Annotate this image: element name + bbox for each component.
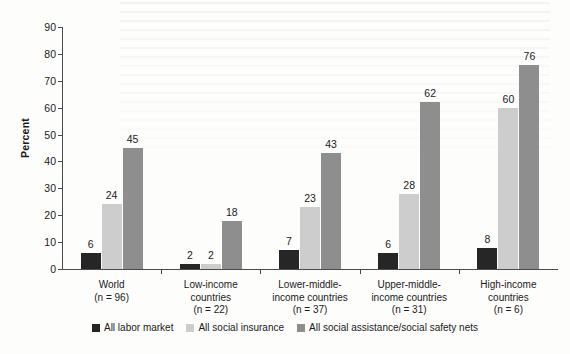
y-tick-label: 70 <box>22 75 56 87</box>
bar: 43 <box>321 153 341 269</box>
legend-swatch-icon <box>297 324 305 332</box>
legend-item-label: All social assistance/social safety nets <box>309 322 478 333</box>
bar-value-label: 18 <box>226 206 238 218</box>
bar-value-label: 24 <box>106 189 118 201</box>
x-axis-line <box>62 269 558 270</box>
y-tick-label: 10 <box>22 236 56 248</box>
y-tick-label: 20 <box>22 209 56 221</box>
bar: 6 <box>378 253 398 269</box>
y-tick-mark <box>58 135 62 136</box>
x-axis-group-separator <box>161 269 162 274</box>
y-tick-mark <box>58 27 62 28</box>
y-tick-mark <box>58 215 62 216</box>
y-tick-mark <box>58 81 62 82</box>
legend-item-label: All social insurance <box>198 322 284 333</box>
y-tick-label: 50 <box>22 129 56 141</box>
x-axis-category-label-line: countries <box>448 292 568 305</box>
x-axis-group-separator <box>459 269 460 274</box>
y-tick-label: 80 <box>22 48 56 60</box>
legend-swatch-icon <box>92 324 100 332</box>
y-axis-line <box>62 27 63 270</box>
x-axis-category-label-line: (n = 6) <box>448 304 568 317</box>
y-tick-mark <box>58 188 62 189</box>
x-axis-category-label-line: High-income <box>448 279 568 292</box>
bar-value-label: 6 <box>88 238 94 250</box>
y-tick-mark <box>58 269 62 270</box>
bar: 24 <box>102 204 122 269</box>
bar-value-label: 28 <box>403 179 415 191</box>
y-tick-label: 0 <box>22 263 56 275</box>
chart-legend: All labor marketAll social insuranceAll … <box>0 322 570 333</box>
bar-value-label: 23 <box>304 192 316 204</box>
bar: 62 <box>420 102 440 269</box>
bar: 8 <box>477 248 497 270</box>
bar-value-label: 45 <box>127 133 139 145</box>
bar: 60 <box>498 108 518 269</box>
bar-value-label: 8 <box>484 233 490 245</box>
x-axis-category-label: High-incomecountries(n = 6) <box>448 279 568 317</box>
bar: 2 <box>201 264 221 269</box>
bar: 45 <box>123 148 143 269</box>
bar: 76 <box>519 65 539 269</box>
x-axis-group-separator <box>360 269 361 274</box>
legend-item[interactable]: All labor market <box>92 322 173 333</box>
y-tick-label: 60 <box>22 102 56 114</box>
y-tick-label: 90 <box>22 21 56 33</box>
legend-item[interactable]: All social assistance/social safety nets <box>297 322 478 333</box>
bar: 2 <box>180 264 200 269</box>
legend-item[interactable]: All social insurance <box>186 322 284 333</box>
x-axis-group-separator <box>260 269 261 274</box>
y-tick-mark <box>58 161 62 162</box>
bar: 18 <box>222 221 242 269</box>
bar-value-label: 60 <box>503 93 515 105</box>
y-tick-mark <box>58 54 62 55</box>
bar-value-label: 2 <box>187 249 193 261</box>
bar: 23 <box>300 207 320 269</box>
bar-value-label: 62 <box>424 87 436 99</box>
legend-item-label: All labor market <box>104 322 173 333</box>
bar-value-label: 6 <box>385 238 391 250</box>
bar: 7 <box>279 250 299 269</box>
bar-value-label: 76 <box>524 50 536 62</box>
bar: 28 <box>399 194 419 269</box>
bar-chart: Percent 0102030405060708090 624452218723… <box>0 0 570 354</box>
y-tick-label: 40 <box>22 155 56 167</box>
plot-area: 0102030405060708090 62445221872343628628… <box>62 27 558 269</box>
bar-value-label: 2 <box>208 249 214 261</box>
bar-value-label: 7 <box>286 235 292 247</box>
y-tick-mark <box>58 108 62 109</box>
bar: 6 <box>81 253 101 269</box>
legend-swatch-icon <box>186 324 194 332</box>
bar-value-label: 43 <box>325 138 337 150</box>
y-tick-mark <box>58 242 62 243</box>
y-tick-label: 30 <box>22 182 56 194</box>
